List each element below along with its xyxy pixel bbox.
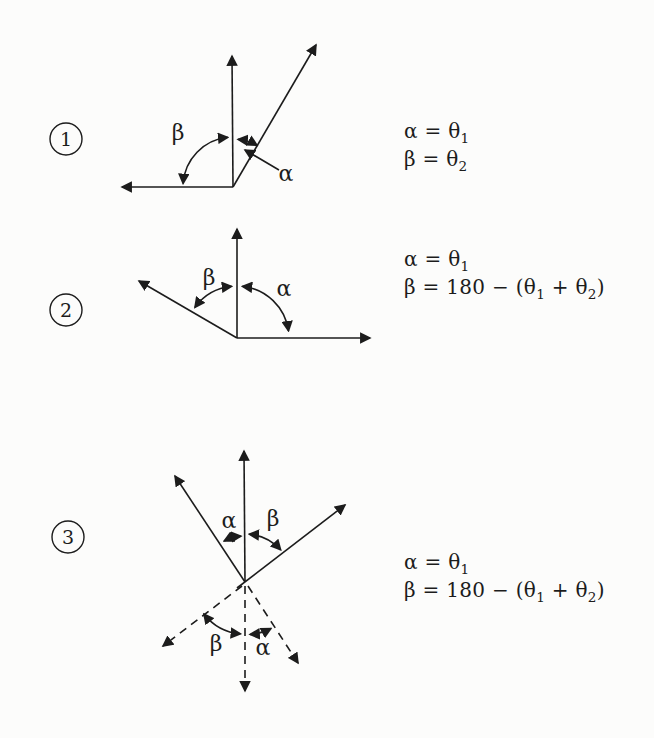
alpha-angle-arc bbox=[224, 536, 241, 541]
vector-diagonal-up-right-arrow bbox=[237, 505, 345, 588]
eq-subscript: 2 bbox=[588, 589, 597, 605]
vector-diagonal-up-left-arrow bbox=[139, 281, 237, 338]
eq-subscript: 2 bbox=[588, 286, 597, 302]
eq-text: β = θ bbox=[404, 147, 459, 171]
figure-number-2: 2 bbox=[60, 299, 72, 321]
alpha-reflected-angle-arc bbox=[250, 629, 271, 635]
eq-text: + θ bbox=[545, 578, 588, 602]
vector-up-arrow bbox=[232, 56, 233, 187]
beta-label: β bbox=[203, 265, 216, 290]
beta-label: β bbox=[267, 506, 280, 531]
alpha-label: α bbox=[277, 276, 292, 301]
eq-text: α = θ bbox=[404, 247, 461, 271]
eq-subscript: 1 bbox=[461, 130, 470, 146]
alpha-leader-arrow bbox=[245, 150, 279, 170]
eq-subscript: 1 bbox=[461, 258, 470, 274]
figure-number-1: 1 bbox=[60, 128, 72, 150]
alpha-angle-arc bbox=[238, 139, 257, 145]
eq-text: α = θ bbox=[404, 550, 461, 574]
vector-diagonal-down-left-dashed-arrow bbox=[163, 586, 242, 646]
beta-label: β bbox=[172, 120, 185, 145]
equation-alpha: α = θ1 bbox=[404, 117, 469, 145]
vector-diagrams-canvas: 1 β α 2 β α 3 bbox=[0, 0, 654, 738]
equations-diagram-3: α = θ1 β = 180 − (θ1 + θ2) bbox=[404, 548, 605, 604]
eq-subscript: 1 bbox=[536, 589, 545, 605]
eq-subscript: 1 bbox=[461, 561, 470, 577]
vector-diagonal-up-right-arrow bbox=[233, 45, 316, 187]
equation-beta: β = 180 − (θ1 + θ2) bbox=[404, 273, 605, 301]
eq-text: ) bbox=[597, 275, 605, 299]
eq-subscript: 2 bbox=[459, 158, 468, 174]
figure-number-3: 3 bbox=[62, 526, 74, 548]
diagram-3: 3 α β β α bbox=[52, 451, 345, 691]
equations-diagram-1: α = θ1 β = θ2 bbox=[404, 117, 469, 173]
figure-page: 1 β α 2 β α 3 bbox=[0, 0, 654, 738]
vector-up-arrow bbox=[244, 451, 245, 582]
diagram-1: 1 β α bbox=[50, 45, 316, 187]
alpha-label: α bbox=[279, 161, 294, 186]
equation-alpha: α = θ1 bbox=[404, 245, 605, 273]
diagram-2: 2 β α bbox=[50, 229, 370, 338]
eq-text: β = 180 − (θ bbox=[404, 578, 536, 602]
eq-subscript: 1 bbox=[536, 286, 545, 302]
beta-angle-arc bbox=[249, 534, 281, 550]
eq-text: ) bbox=[597, 578, 605, 602]
eq-text: α = θ bbox=[404, 119, 461, 143]
equation-beta: β = 180 − (θ1 + θ2) bbox=[404, 576, 605, 604]
equation-beta: β = θ2 bbox=[404, 145, 469, 173]
alpha-label: α bbox=[222, 508, 237, 533]
eq-text: + θ bbox=[545, 275, 588, 299]
equations-diagram-2: α = θ1 β = 180 − (θ1 + θ2) bbox=[404, 245, 605, 301]
eq-text: β = 180 − (θ bbox=[404, 275, 536, 299]
beta-angle-arc bbox=[183, 137, 228, 183]
equation-alpha: α = θ1 bbox=[404, 548, 605, 576]
beta-reflected-label: β bbox=[210, 631, 223, 656]
alpha-reflected-label: α bbox=[256, 635, 271, 660]
